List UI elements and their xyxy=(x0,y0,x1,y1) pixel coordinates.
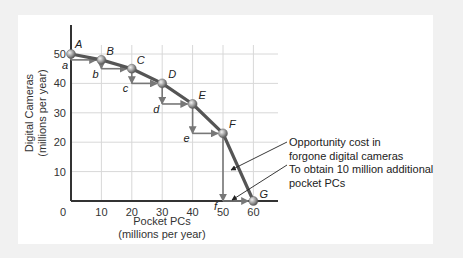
x-tick-label: 50 xyxy=(217,206,229,218)
step-label: c xyxy=(123,82,129,94)
point-label: B xyxy=(106,45,113,57)
y-tick-label: 20 xyxy=(54,136,66,148)
annotation-text: forgone digital cameras xyxy=(289,150,404,162)
y-tick-label: 10 xyxy=(54,166,66,178)
point-marker xyxy=(188,99,197,108)
y-tick-label: 30 xyxy=(54,107,66,119)
point-label: C xyxy=(137,54,145,66)
x-tick-label: 0 xyxy=(60,206,66,218)
step-label: a xyxy=(62,59,68,71)
x-axis-sublabel: (millions per year) xyxy=(118,228,205,240)
y-axis-label: Digital Cameras xyxy=(23,73,35,152)
point-marker xyxy=(249,197,258,206)
point-marker xyxy=(67,50,76,59)
x-tick-label: 60 xyxy=(247,206,259,218)
x-tick-label: 10 xyxy=(95,206,107,218)
point-label: D xyxy=(168,68,176,80)
point-label: E xyxy=(199,89,207,101)
annotation-text: To obtain 10 million additional xyxy=(289,163,433,175)
annotation-arrow xyxy=(231,142,287,170)
point-marker xyxy=(219,129,228,138)
point-marker xyxy=(127,64,136,73)
step-label: e xyxy=(184,132,190,144)
x-axis-label: Pocket PCs xyxy=(133,215,191,227)
tick-labels: 01020304050601020304050 xyxy=(54,48,260,218)
point-marker xyxy=(158,79,167,88)
y-axis-sublabel: (millions per year) xyxy=(36,69,48,156)
point-label: A xyxy=(74,38,82,50)
data-points: ABCDEFG xyxy=(67,38,269,206)
annotation-text: pocket PCs xyxy=(289,177,346,189)
point-marker xyxy=(97,55,106,64)
ppf-chart: 01020304050601020304050 abcdef ABCDEFG O… xyxy=(0,0,463,258)
step-label: b xyxy=(92,68,98,80)
step-label: d xyxy=(153,103,160,115)
annotation-text: Opportunity cost in xyxy=(289,136,381,148)
point-label: F xyxy=(229,118,237,130)
y-tick-label: 40 xyxy=(54,77,66,89)
point-label: G xyxy=(259,188,268,200)
